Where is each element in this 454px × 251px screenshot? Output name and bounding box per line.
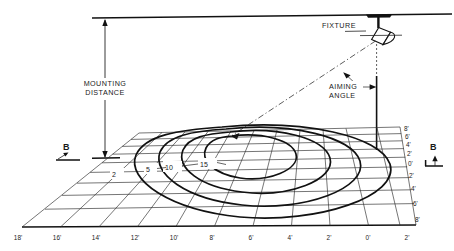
aiming-angle-label-line1: AIMING xyxy=(329,82,357,91)
fixture-label: FIXTURE xyxy=(322,21,356,30)
x-tick-7: 4' xyxy=(288,234,293,241)
mounting-distance-arrow-bottom xyxy=(102,151,107,158)
grid-col-7 xyxy=(292,130,301,226)
x-tick-10: 2' xyxy=(405,234,410,241)
aiming-angle-label-line2: ANGLE xyxy=(329,91,356,100)
contour-leader-15 xyxy=(217,163,226,165)
x-tick-3: 12' xyxy=(131,234,139,241)
isolux-diagram: FIXTURE MOUNTING DISTANCE xyxy=(0,0,454,251)
grid-col-left-edge xyxy=(22,133,139,227)
x-tick-9: 0' xyxy=(366,234,371,241)
y-tick-3: 2' xyxy=(407,150,412,157)
x-tick-6: 6' xyxy=(249,234,254,241)
aiming-angle-arrowhead-right xyxy=(370,84,377,90)
section-label-left: B xyxy=(63,142,70,152)
y-tick-7: 6' xyxy=(413,200,418,207)
section-right-arrowhead xyxy=(432,156,437,162)
contour-labels: 2 5 10 15 xyxy=(110,158,226,179)
mounting-distance-dimension: MOUNTING DISTANCE xyxy=(69,19,141,158)
contour-label-10: 10 xyxy=(165,164,173,171)
y-tick-2: 4' xyxy=(406,141,411,148)
y-tick-0: 8' xyxy=(404,125,409,132)
contour-label-5: 5 xyxy=(146,166,150,173)
contour-15 xyxy=(205,135,297,179)
x-axis-labels: 18' 16' 14' 12' 10' 8' 6' 4' 2' 0' 2' xyxy=(14,234,410,241)
mounting-distance-label-line2: DISTANCE xyxy=(85,88,124,97)
grid-row-8 xyxy=(45,204,414,210)
y-tick-4: 0' xyxy=(408,160,413,167)
y-tick-5: 2' xyxy=(409,172,414,179)
grid-front-edge xyxy=(22,225,416,227)
fixture-assembly: FIXTURE xyxy=(322,14,402,44)
x-tick-1: 16' xyxy=(53,234,61,241)
grid-row-3 xyxy=(113,149,404,155)
mounting-distance-label-line1: MOUNTING xyxy=(84,79,127,88)
section-label-right: B xyxy=(430,142,437,152)
aiming-angle-annotation: AIMING ANGLE xyxy=(327,72,376,102)
section-marker-left: B xyxy=(56,142,80,160)
x-tick-4: 10' xyxy=(170,234,178,241)
x-tick-5: 8' xyxy=(210,234,215,241)
y-axis-labels: 8' 6' 4' 2' 0' 2' 4' 6' 8' xyxy=(404,125,420,223)
fixture-stem-icon xyxy=(377,17,379,28)
section-marker-right: B xyxy=(425,142,443,166)
y-tick-1: 6' xyxy=(405,133,410,140)
section-left-arrowhead xyxy=(63,153,68,157)
diagram-page: FIXTURE MOUNTING DISTANCE xyxy=(0,0,454,251)
y-tick-8: 8' xyxy=(415,216,420,223)
contour-label-15: 15 xyxy=(200,161,208,168)
x-tick-8: 2' xyxy=(327,234,332,241)
contour-label-2: 2 xyxy=(112,171,116,178)
mounting-distance-arrow-top xyxy=(102,19,107,26)
ceiling-line-group xyxy=(92,14,452,18)
ceiling-line xyxy=(92,14,452,18)
x-tick-0: 18' xyxy=(14,234,22,241)
x-tick-2: 14' xyxy=(92,234,100,241)
y-tick-6: 4' xyxy=(411,185,416,192)
